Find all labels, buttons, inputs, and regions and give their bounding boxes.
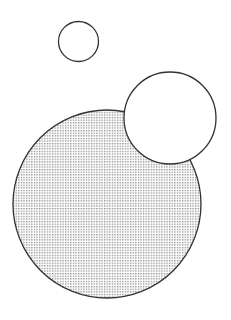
diagram-canvas: [0, 0, 231, 320]
medium-circle: [124, 72, 216, 164]
small-circle: [59, 22, 99, 62]
